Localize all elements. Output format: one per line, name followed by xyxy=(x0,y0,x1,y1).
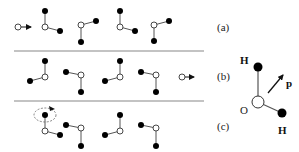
legend-oxygen-atom xyxy=(252,96,264,108)
water-molecule xyxy=(102,58,123,84)
legend-label-h-bottom: H xyxy=(278,124,287,136)
hydrogen-atom xyxy=(138,122,144,128)
outgoing-ion xyxy=(179,74,185,80)
hydrogen-atom xyxy=(78,39,84,45)
oxygen-atom xyxy=(42,128,48,134)
legend-hydrogen-atom-bottom xyxy=(278,109,287,118)
panel-label-a: (a) xyxy=(217,21,230,34)
panel-label-c: (c) xyxy=(217,120,230,133)
panel-b xyxy=(27,58,194,95)
water-molecule xyxy=(117,8,138,34)
water-molecule xyxy=(102,112,123,138)
legend-label-p: p xyxy=(286,77,292,89)
panel-label-b: (b) xyxy=(217,70,230,83)
legend-label-h-top: H xyxy=(240,54,249,66)
hydrogen-atom xyxy=(57,28,63,34)
oxygen-atom xyxy=(151,22,157,28)
water-molecule xyxy=(42,112,63,138)
water-molecule xyxy=(138,122,159,149)
hydrogen-atom xyxy=(151,38,157,44)
oxygen-atom xyxy=(42,24,48,30)
hydrogen-atom xyxy=(153,143,159,149)
rotation-arrow-icon xyxy=(49,106,55,111)
incoming-ion xyxy=(15,24,21,30)
legend-label-o: O xyxy=(240,104,248,116)
hydrogen-atom xyxy=(63,122,69,128)
hydrogen-atom xyxy=(78,89,84,95)
oxygen-atom xyxy=(153,72,159,78)
water-molecule xyxy=(151,18,172,44)
water-molecule xyxy=(78,18,99,45)
oxygen-atom xyxy=(117,128,123,134)
panel-c xyxy=(34,106,159,149)
hydrogen-atom xyxy=(117,8,123,14)
hydrogen-atom xyxy=(117,58,123,64)
panel-a xyxy=(15,8,172,45)
hydrogen-atom xyxy=(132,28,138,34)
dipole-arrow-icon xyxy=(268,75,283,93)
water-molecule xyxy=(27,58,48,84)
hydrogen-atom xyxy=(93,18,99,24)
water-chain-diagram: H H O p (a) (b) (c) xyxy=(0,0,299,152)
oxygen-atom xyxy=(42,74,48,80)
oxygen-atom xyxy=(78,72,84,78)
hydrogen-atom xyxy=(63,69,69,75)
water-molecule xyxy=(63,122,84,149)
hydrogen-atom xyxy=(102,78,108,84)
hydrogen-atom xyxy=(42,58,48,64)
hydrogen-atom xyxy=(166,18,172,24)
hydrogen-atom xyxy=(138,69,144,75)
oxygen-atom xyxy=(117,74,123,80)
hydrogen-atom xyxy=(102,132,108,138)
hydrogen-atom xyxy=(42,8,48,14)
oxygen-atom xyxy=(117,24,123,30)
water-molecule xyxy=(42,8,63,34)
hydrogen-atom xyxy=(57,132,63,138)
hydrogen-atom xyxy=(78,143,84,149)
water-molecule xyxy=(138,69,159,95)
panels xyxy=(15,8,194,149)
hydrogen-atom xyxy=(42,112,48,118)
water-molecule xyxy=(63,69,84,95)
oxygen-atom xyxy=(78,22,84,28)
water-molecule-legend: H H O p xyxy=(240,54,292,136)
hydrogen-atom xyxy=(27,78,33,84)
oxygen-atom xyxy=(78,125,84,131)
hydrogen-atom xyxy=(117,112,123,118)
hydrogen-atom xyxy=(153,89,159,95)
oxygen-atom xyxy=(153,125,159,131)
legend-hydrogen-atom-top xyxy=(254,63,263,72)
